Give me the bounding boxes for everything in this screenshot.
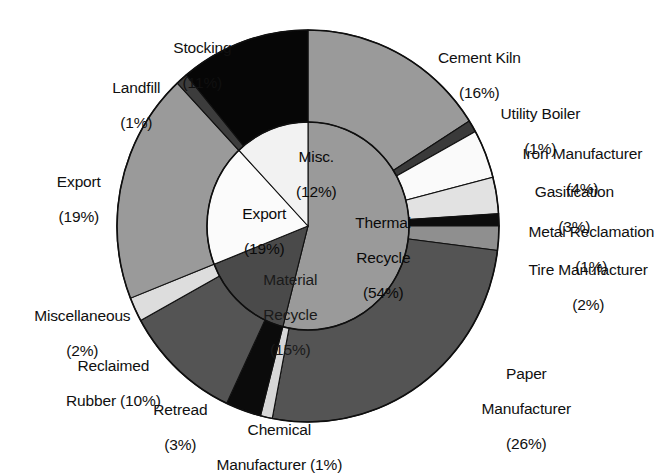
callout-chemical-manufacturer-line1: Chemical [248, 421, 311, 438]
inner-label-misc-line1: Misc. [299, 148, 334, 165]
inner-label-material-recycle: Material Recycle (15%) [232, 253, 332, 377]
callout-stocking-line2: (11%) [183, 74, 222, 91]
callout-reclaimed-rubber-line1: Reclaimed [77, 357, 149, 374]
callout-landfill: Landfill (1%) [68, 62, 188, 149]
callout-cement-kiln: Cement Kiln (16%) [400, 32, 542, 119]
callout-gasification-line2: (3%) [558, 218, 590, 235]
inner-label-material-recycle-line1: Material [263, 271, 317, 288]
inner-label-material-recycle-line2: Recycle [263, 306, 317, 323]
inner-label-thermal-recycle: Thermal Recycle (54%) [322, 196, 428, 320]
inner-label-thermal-recycle-line3: (54%) [363, 284, 404, 301]
inner-label-export-inner-line1: Export [242, 205, 286, 222]
callout-cement-kiln-line1: Cement Kiln [438, 49, 521, 66]
callout-paper-manufacturer: Paper Manufacturer (26%) [438, 348, 598, 470]
callout-landfill-line2: (1%) [120, 114, 152, 131]
callout-chemical-manufacturer-line2: Manufacturer (1%) [216, 456, 342, 473]
callout-cement-kiln-line2: (16%) [459, 84, 500, 101]
callout-utility-boiler-line2: (1%) [524, 140, 556, 157]
callout-export-outer-line1: Export [57, 173, 101, 190]
callout-paper-manufacturer-line1: Paper [506, 365, 547, 382]
pie-chart-figure: Stocking (11%) Landfill (1%) Export (19%… [0, 0, 668, 473]
callout-iron-manufacturer-line2: (4%) [566, 180, 598, 197]
callout-landfill-line1: Landfill [112, 79, 160, 96]
callout-paper-manufacturer-line2: Manufacturer [482, 400, 572, 417]
inner-label-thermal-recycle-line2: Recycle [356, 249, 410, 266]
callout-tire-manufacturer-line2: (2%) [572, 296, 604, 313]
inner-label-thermal-recycle-line1: Thermal [355, 214, 411, 231]
callout-paper-manufacturer-line3: (26%) [506, 435, 547, 452]
inner-label-material-recycle-line3: (15%) [270, 341, 311, 358]
callout-export-outer: Export (19%) [18, 156, 123, 243]
callout-metal-reclamation-line2: (1%) [575, 258, 607, 275]
callout-export-outer-line2: (19%) [59, 208, 100, 225]
callout-chemical-manufacturer: Chemical Manufacturer (1%) [178, 404, 364, 473]
callout-stocking-line1: Stocking [173, 39, 231, 56]
callout-miscellaneous-line1: Miscellaneous [34, 307, 130, 324]
